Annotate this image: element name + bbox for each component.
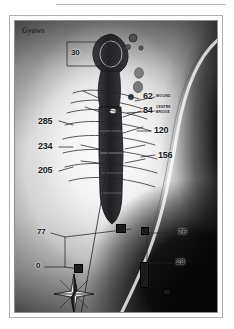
north-arrow-icon [51,271,97,313]
label-234: 234 [38,142,52,151]
label-84: 84 [143,106,153,115]
figure-page: Gyaws 30 62 WOUND 84 CENTRE BRIDGE 120 1… [0,0,234,329]
label-84-caption-line2: BRIDGE [156,111,170,115]
label-62-caption: WOUND [156,95,171,99]
plate-inner-frame: Gyaws 30 62 WOUND 84 CENTRE BRIDGE 120 1… [14,20,218,313]
label-0: 0 [36,262,40,270]
label-77: 77 [37,228,46,236]
trench-marker-d [140,262,149,288]
trench-marker-b [141,227,149,235]
label-156: 156 [158,151,172,160]
label-120: 120 [154,126,168,135]
trench-marker-a [116,224,126,233]
label-62: 62 [143,92,153,101]
label-205: 205 [38,166,52,175]
page-top-rule [56,4,226,5]
label-76: 76 [178,228,187,236]
label-28: 28 [176,258,185,266]
label-285: 285 [38,117,52,126]
figure-title: Gyaws [22,26,45,35]
label-30: 30 [71,49,80,57]
